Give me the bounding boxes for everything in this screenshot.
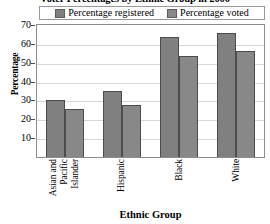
bar (122, 105, 141, 157)
y-tick-mark-10 (31, 138, 35, 139)
y-tick-label-70: 70 (8, 20, 31, 30)
y-tick-label-50: 50 (8, 58, 31, 68)
bar-group (217, 25, 255, 157)
legend-entry-registered: Percentage registered (55, 8, 154, 18)
bar (217, 33, 236, 157)
legend-swatch-registered (55, 9, 65, 18)
bar-group (46, 25, 84, 157)
legend-swatch-voted (167, 9, 177, 18)
y-tick-mark-70 (31, 25, 35, 26)
x-tick-label-group: White (214, 159, 258, 209)
bar-groups (37, 25, 264, 157)
legend-label-voted: Percentage voted (180, 8, 249, 18)
y-tick-label-40: 40 (8, 77, 31, 87)
y-tick-label-20: 20 (8, 114, 31, 124)
bar-group (103, 25, 141, 157)
x-axis-title: Ethnic Group (36, 209, 265, 220)
x-tick-label-line: Asian and (48, 159, 59, 196)
chart-title: Voter Percentages by Ethnic Group in 200… (0, 0, 270, 4)
bar (236, 51, 255, 157)
x-tick-label-line: Black (174, 159, 185, 181)
y-tick-label-10: 10 (8, 133, 31, 143)
y-tick-label-60: 60 (8, 39, 31, 49)
legend-entry-voted: Percentage voted (167, 8, 249, 18)
y-axis-tick-labels: 10203040506070 (8, 24, 31, 158)
bar (65, 109, 84, 157)
chart-figure: Voter Percentages by Ethnic Group in 200… (0, 0, 270, 224)
y-tick-mark-60 (31, 44, 35, 45)
y-tick-mark-20 (31, 119, 35, 120)
x-tick-label-group: Hispanic (100, 159, 144, 209)
bar-group (160, 25, 198, 157)
x-tick-label-group: Asian andPacificIslander (43, 159, 87, 209)
bar (160, 37, 179, 157)
bar (179, 56, 198, 157)
bar (46, 100, 65, 157)
x-tick-label-line: Pacific (59, 159, 70, 185)
y-tick-mark-30 (31, 100, 35, 101)
y-tick-mark-40 (31, 82, 35, 83)
y-tick-mark-50 (31, 63, 35, 64)
x-tick-label-group: Black (157, 159, 201, 209)
x-tick-label-line: Islander (70, 159, 81, 189)
bar (103, 91, 122, 157)
plot-area (36, 24, 265, 158)
x-axis-tick-labels: Asian andPacificIslanderHispanicBlackWhi… (36, 159, 265, 209)
y-tick-label-30: 30 (8, 95, 31, 105)
x-tick-label-line: White (231, 159, 242, 182)
chart-legend: Percentage registered Percentage voted (39, 6, 265, 20)
x-tick-label-line: Hispanic (116, 159, 127, 192)
legend-label-registered: Percentage registered (68, 8, 154, 18)
